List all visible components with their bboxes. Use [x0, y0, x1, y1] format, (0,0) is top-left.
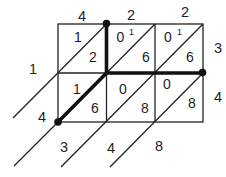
path-dot-bottom-left [54, 118, 62, 126]
right-digit-label-1: 4 [214, 89, 222, 105]
left-result-digit-1: 4 [38, 109, 46, 125]
path-dot-top [103, 20, 111, 28]
diagonal-line-2-tail [14, 122, 58, 166]
cell-0-2-ones-digit: 6 [186, 49, 194, 65]
top-digit-label-0: 4 [78, 8, 86, 24]
cell-1-1-ones-digit: 8 [141, 100, 149, 116]
cell-0-1-ones-digit: 6 [142, 49, 150, 65]
cell-1-2-tens-digit: 0 [163, 76, 171, 92]
bottom-result-digit-0: 3 [60, 139, 68, 155]
cell-1-1-tens-digit: 0 [119, 81, 127, 97]
cell-1-0-ones-digit: 6 [91, 100, 99, 116]
cell-1-0-tens-digit: 1 [73, 81, 81, 97]
cell-0-0-tens-digit: 1 [74, 29, 82, 45]
path-dot-right [199, 69, 207, 77]
right-digit-label-0: 3 [214, 40, 222, 56]
left-result-digit-0: 1 [29, 61, 37, 77]
cell-0-0-ones-digit: 2 [89, 49, 97, 65]
bottom-result-digit-1: 4 [107, 140, 115, 156]
bottom-result-digit-2: 8 [155, 138, 163, 154]
bold-path-diagonal [58, 73, 107, 122]
figure-canvas: 422341434812061061160808 [0, 0, 226, 177]
cell-0-2-tens-digit: 0 [164, 29, 172, 45]
cell-1-2-ones-digit: 8 [188, 95, 196, 111]
cell-0-2-carry-digit: 1 [177, 27, 182, 37]
top-digit-label-2: 2 [181, 4, 189, 20]
cell-0-1-carry-digit: 1 [129, 27, 134, 37]
lattice-multiplication-diagram: 422341434812061061160808 [0, 0, 226, 177]
cell-0-1-tens-digit: 0 [117, 29, 125, 45]
top-digit-label-1: 2 [127, 7, 135, 23]
